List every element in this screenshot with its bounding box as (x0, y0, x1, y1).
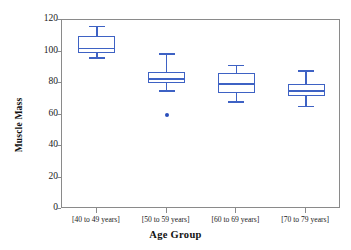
y-axis-tick-label: 120 (18, 14, 58, 24)
plot-area (61, 19, 340, 208)
boxplot-iqr-box (78, 36, 115, 53)
boxplot-lower-cap (159, 90, 175, 92)
boxplot-lower-cap (228, 101, 244, 103)
boxplot-outlier-point (165, 113, 169, 117)
boxplot-lower-cap (298, 106, 314, 108)
boxplot-upper-whisker (96, 26, 98, 35)
y-axis-tick-label: 0 (18, 203, 58, 213)
x-axis-tick-mark (235, 208, 236, 213)
boxplot-figure: Muscle Mass 020406080100120 [40 to 49 ye… (0, 0, 351, 250)
boxplot-upper-cap (89, 26, 105, 28)
boxplot-median-line (218, 83, 255, 85)
boxplot-upper-whisker (305, 71, 307, 84)
boxplot-upper-cap (228, 65, 244, 67)
boxplot-upper-whisker (166, 54, 168, 72)
boxplot-median-line (148, 78, 185, 80)
y-axis-tick-label: 80 (18, 77, 58, 87)
boxplot-upper-cap (159, 53, 175, 55)
x-axis-title: Age Group (0, 229, 351, 240)
x-axis-tick-mark (166, 208, 167, 213)
x-axis-tick-label: [70 to 79 years] (260, 215, 350, 224)
x-axis-tick-mark (305, 208, 306, 213)
y-axis-tick-label: 100 (18, 46, 58, 56)
y-axis-tick-label: 40 (18, 140, 58, 150)
boxplot-median-line (78, 48, 115, 50)
y-axis-tick-mark (56, 208, 61, 209)
boxplot-upper-cap (298, 70, 314, 72)
x-axis-tick-mark (96, 208, 97, 213)
y-axis-tick-label: 20 (18, 172, 58, 182)
y-axis-tick-label: 60 (18, 109, 58, 119)
boxplot-upper-whisker (236, 66, 238, 73)
boxplot-lower-cap (89, 57, 105, 59)
boxplot-median-line (288, 90, 325, 92)
